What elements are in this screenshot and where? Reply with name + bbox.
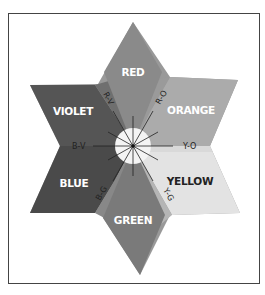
color-star-diagram: RED ORANGE YELLOW GREEN BLUE VIOLET R-V … (0, 0, 265, 295)
label-green: GREEN (114, 214, 152, 226)
label-y-o: Y-O (182, 142, 196, 151)
label-blue: BLUE (60, 177, 89, 189)
label-orange: ORANGE (167, 104, 215, 116)
label-b-v: B-V (72, 142, 86, 151)
label-red: RED (121, 66, 145, 78)
label-yellow: YELLOW (166, 175, 214, 187)
label-violet: VIOLET (53, 105, 94, 117)
center-dot (131, 144, 135, 148)
